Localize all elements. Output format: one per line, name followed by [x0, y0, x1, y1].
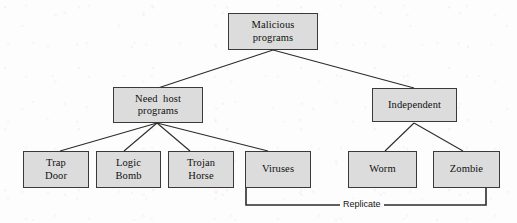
- node-independent: Independent: [372, 88, 457, 122]
- node-label-line1: Worm: [369, 163, 395, 176]
- node-label-line1: Trojan: [187, 157, 215, 170]
- node-label-line1: Trap: [46, 157, 66, 170]
- edge-independent-to-worm: [385, 123, 414, 151]
- node-label-line1: Need host: [135, 93, 181, 106]
- node-viruses: Viruses: [245, 151, 311, 188]
- edge-root-to-independent: [273, 50, 414, 88]
- node-label-line2: Horse: [188, 170, 214, 183]
- node-worm: Worm: [348, 151, 417, 188]
- node-label-line1: Malicious: [252, 19, 295, 32]
- node-label-line1: Viruses: [262, 163, 294, 176]
- node-logic-bomb: Logic Bomb: [96, 151, 161, 188]
- node-label-line2: programs: [253, 32, 293, 45]
- replicate-label: Replicate: [340, 199, 384, 209]
- node-label-line1: Zombie: [450, 163, 483, 176]
- node-label-line2: programs: [138, 105, 178, 118]
- figure-canvas: Malicious programs Need host programs In…: [0, 0, 517, 223]
- node-label-line2: Door: [45, 170, 67, 183]
- edge-independent-to-zombie: [414, 123, 463, 151]
- edge-need-host-to-trap-door: [60, 123, 157, 151]
- node-trap-door: Trap Door: [23, 151, 89, 188]
- node-trojan-horse: Trojan Horse: [168, 151, 234, 188]
- node-malicious-programs: Malicious programs: [228, 13, 318, 50]
- node-label-line2: Bomb: [115, 170, 141, 183]
- node-label-line1: Independent: [388, 99, 441, 112]
- edge-root-to-need-host: [158, 50, 273, 88]
- node-label-line1: Logic: [116, 157, 141, 170]
- node-zombie: Zombie: [433, 151, 500, 188]
- node-need-host-programs: Need host programs: [113, 87, 203, 123]
